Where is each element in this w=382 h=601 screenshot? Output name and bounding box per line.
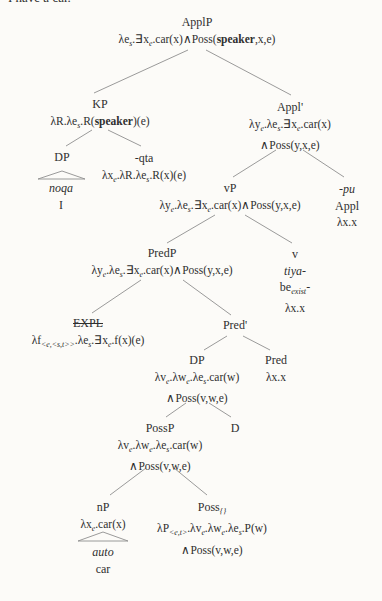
- node-formula: λye.λes.∃xe.car(x)∧Poss(y,x,e): [91, 262, 232, 283]
- edge-predp-expl: [92, 280, 141, 313]
- leaf-gloss: I: [49, 197, 73, 214]
- leaf-gloss: car: [92, 561, 113, 578]
- node-expl: EXPL λf<e,<s,t>>.λes.∃xe.f(x)(e): [32, 315, 145, 353]
- node-gloss: beexist-: [280, 279, 310, 300]
- node-poss: Poss{} λP<e,t>.λve.λwe.λes.P(w) ∧Poss(v,…: [157, 499, 267, 558]
- node-dp-lower: DP λve.λwe.λes.car(w) ∧Poss(v,w,e): [155, 352, 240, 406]
- node-d: D: [231, 420, 240, 437]
- leaf-noqa: noqa I: [49, 180, 73, 213]
- edge-appl1-vp: [233, 150, 276, 177]
- node-formula: ∧Poss(v,w,e): [157, 542, 267, 559]
- node-pred: Pred λx.x: [265, 352, 287, 385]
- node-label: ApplP: [119, 14, 276, 31]
- node-formula: λx.x: [280, 300, 310, 317]
- node-predp: PredP λye.λes.∃xe.car(x)∧Poss(y,x,e): [91, 245, 232, 283]
- node-label: PredP: [91, 245, 232, 262]
- edge-pred1-dp: [204, 336, 227, 350]
- node-formula: λye.λes.∃xe.car(x)∧Poss(y,x,e): [159, 197, 300, 218]
- node-formula: λxe.car(x): [80, 516, 125, 537]
- node-label: -qta: [102, 150, 186, 167]
- edge-applp-appl1: [206, 50, 291, 95]
- edge-vp-v: [245, 215, 292, 243]
- node-formula: λve.λwe.λes.car(w): [155, 369, 240, 390]
- node-gloss: Appl: [335, 198, 359, 215]
- node-label: Pred: [265, 352, 287, 369]
- node-formula: λf<e,<s,t>>.λes.∃xe.f(x)(e): [32, 332, 145, 353]
- node-label: PossP: [118, 420, 203, 437]
- node-applp: ApplP λes.∃xe.car(x)∧Poss(speaker,x,e): [119, 14, 276, 52]
- node-formula: λes.∃xe.car(x)∧Poss(speaker,x,e): [119, 31, 276, 52]
- node-vp: vP λye.λes.∃xe.car(x)∧Poss(y,x,e): [159, 180, 300, 218]
- node-label: Appl': [249, 99, 331, 116]
- edge-vp-predp: [167, 215, 215, 243]
- node-formula: λx.x: [265, 369, 287, 386]
- leaf-auto: auto car: [92, 544, 113, 577]
- edge-appl1-pu: [303, 150, 344, 177]
- node-v: v tiya- beexist- λx.x: [280, 246, 310, 317]
- syntax-tree-page: I have a car. ApplP λes.∃xe.car(x)∧Poss(…: [0, 0, 382, 601]
- node-pu: -pu Appl λx.x: [335, 181, 359, 231]
- node-formula: λR.λes.R(speaker)(e): [50, 113, 149, 134]
- node-pred-bar: Pred': [223, 317, 247, 334]
- node-label: v: [280, 246, 310, 263]
- node-formula: λye.λes.∃xe.car(x): [249, 116, 331, 137]
- node-label: DP: [54, 149, 69, 166]
- node-formula: ∧Poss(v,w,e): [118, 458, 203, 475]
- node-appl-bar: Appl' λye.λes.∃xe.car(x) ∧Poss(y,x,e): [249, 99, 331, 153]
- leaf-word: noqa: [49, 180, 73, 197]
- leaf-word: auto: [92, 544, 113, 561]
- node-label: Poss{}: [157, 499, 267, 520]
- node-kp: KP λR.λes.R(speaker)(e): [50, 96, 149, 134]
- node-formula: λve.λwe.λes.car(w): [118, 437, 203, 458]
- edge-pred1-pred: [243, 336, 270, 350]
- node-formula: λP<e,t>.λve.λwe.λes.P(w): [157, 520, 267, 541]
- node-label: nP: [80, 499, 125, 516]
- node-label: DP: [155, 352, 240, 369]
- edge-predp-pred1: [183, 280, 231, 315]
- node-dp-upper: DP: [54, 149, 69, 166]
- node-word: tiya-: [280, 263, 310, 280]
- node-np: nP λxe.car(x): [80, 499, 125, 537]
- node-formula: ∧Poss(y,x,e): [249, 137, 331, 154]
- edge-applp-kp: [94, 50, 188, 93]
- node-formula: λx.x: [335, 214, 359, 231]
- node-label: D: [231, 420, 240, 437]
- noqa-triangle: [38, 171, 85, 179]
- node-possp: PossP λve.λwe.λes.car(w) ∧Poss(v,w,e): [118, 420, 203, 474]
- node-label: -pu: [335, 181, 359, 198]
- node-label: KP: [50, 96, 149, 113]
- node-label: vP: [159, 180, 300, 197]
- node-label: EXPL: [32, 315, 145, 332]
- node-formula: ∧Poss(v,w,e): [155, 390, 240, 407]
- node-label: Pred': [223, 317, 247, 334]
